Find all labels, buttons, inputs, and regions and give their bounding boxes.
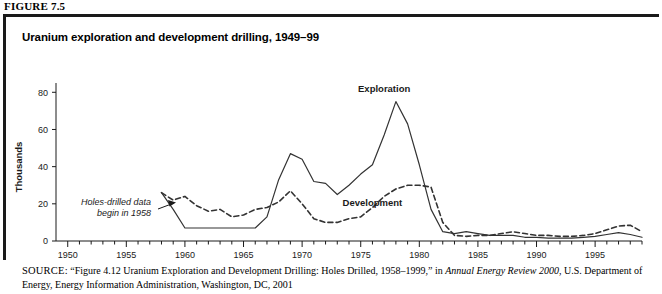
chart-series-labels: ExplorationDevelopment [343,83,411,207]
y-axis-title: Thousands [13,142,24,193]
y-tick-label: 60 [38,125,48,135]
y-tick-label: 80 [38,88,48,98]
chart-series-layer [161,102,642,239]
y-tick-label: 0 [43,236,48,246]
x-tick-label: 1970 [292,250,312,260]
source-prefix: SOURCE: [22,265,68,276]
source-text-part1: “Figure 4.12 Uranium Exploration and Dev… [68,265,445,276]
series-line-development [161,185,642,236]
x-tick-label: 1985 [468,250,488,260]
x-tick-label: 1995 [585,250,605,260]
source-publication-title: Annual Energy Review 2000 [445,265,559,276]
x-tick-label: 1965 [234,250,254,260]
x-tick-label: 1960 [175,250,195,260]
x-tick-label: 1950 [58,250,78,260]
annotation-line2: begin in 1958 [97,208,151,218]
y-tick-label: 40 [38,162,48,172]
series-line-exploration [161,102,642,239]
series-label-exploration: Exploration [358,83,410,94]
source-note: SOURCE: “Figure 4.12 Uranium Exploration… [22,264,654,291]
figure-frame: Uranium exploration and development dril… [3,14,659,260]
y-axis-ticks: 020406080 [38,88,56,247]
figure-label: FIGURE 7.5 [4,0,65,13]
y-tick-label: 20 [38,199,48,209]
x-tick-label: 1955 [116,250,136,260]
x-tick-label: 1980 [409,250,429,260]
annotation-line1: Holes-drilled data [81,197,151,207]
chart-plot: 020406080 195019551960196519701975198019… [6,17,662,263]
x-tick-label: 1975 [351,250,371,260]
series-label-development: Development [343,197,403,208]
x-tick-label: 1990 [527,250,547,260]
x-axis-ticks: 1950195519601965197019751980198519901995 [58,241,642,260]
